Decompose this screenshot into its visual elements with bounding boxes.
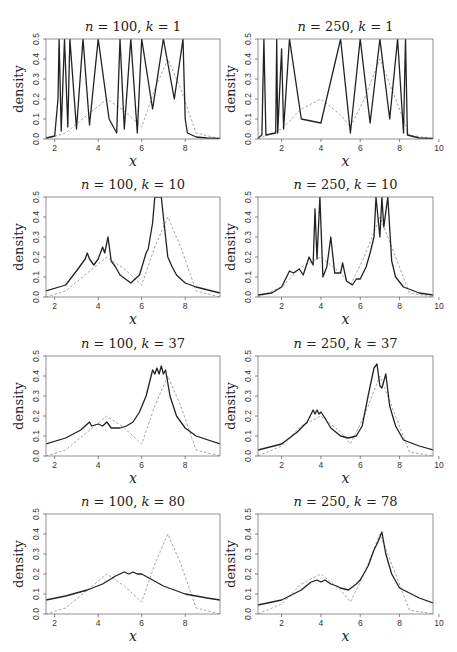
y-tick-label: 0.0: [243, 291, 253, 303]
x-tick-label: 6: [139, 143, 144, 153]
y-tick-label: 0.1: [243, 588, 253, 600]
y-tick-label: 0.1: [243, 113, 253, 125]
x-tick-label: 8: [183, 618, 188, 628]
x-tick-label: 4: [319, 618, 324, 628]
y-tick-label: 0.3: [31, 548, 41, 560]
y-axis-label: density: [11, 539, 26, 587]
x-tick-label: 8: [397, 460, 402, 470]
y-tick-label: 0.5: [31, 33, 41, 45]
y-tick-label: 0.3: [31, 231, 41, 243]
y-tick-label: 0.0: [243, 133, 253, 145]
y-axis-label: density: [223, 222, 238, 270]
y-axis-label: density: [11, 222, 26, 270]
y-tick-label: 0.2: [31, 568, 41, 580]
y-axis-label: density: [223, 381, 238, 429]
y-tick-label: 0.4: [243, 528, 253, 540]
y-tick-label: 0.0: [31, 291, 41, 303]
y-tick-label: 0.3: [243, 390, 253, 402]
x-tick-label: 10: [434, 618, 444, 628]
x-axis-label: x: [342, 311, 350, 327]
plot-frame: [46, 514, 220, 614]
x-tick-label: 6: [139, 460, 144, 470]
y-axis-label: density: [223, 539, 238, 587]
y-tick-label: 0.0: [243, 608, 253, 620]
estimate-line: [258, 39, 433, 138]
estimate-line: [258, 532, 433, 605]
x-tick-label: 8: [397, 143, 402, 153]
y-tick-label: 0.3: [31, 73, 41, 85]
y-tick-label: 0.4: [243, 53, 253, 65]
y-tick-label: 0.4: [31, 528, 41, 540]
x-axis-label: x: [342, 470, 350, 486]
y-tick-label: 0.4: [31, 211, 41, 223]
x-tick-label: 10: [434, 143, 444, 153]
estimate-line: [46, 366, 220, 444]
x-tick-label: 6: [358, 618, 363, 628]
plot-frame: [46, 197, 220, 297]
y-tick-label: 0.2: [243, 568, 253, 580]
x-tick-label: 2: [52, 301, 57, 311]
y-tick-label: 0.1: [243, 271, 253, 283]
x-tick-label: 4: [96, 143, 101, 153]
x-tick-label: 4: [96, 301, 101, 311]
x-tick-label: 4: [96, 618, 101, 628]
true-density-line: [46, 376, 220, 456]
y-tick-label: 0.3: [243, 73, 253, 85]
y-tick-label: 0.0: [31, 608, 41, 620]
panel-8: n = 250, k = 780.00.10.20.30.40.5246810x…: [223, 494, 444, 644]
y-tick-label: 0.0: [31, 133, 41, 145]
x-tick-label: 2: [279, 618, 284, 628]
x-tick-label: 4: [319, 143, 324, 153]
y-tick-label: 0.2: [31, 410, 41, 422]
y-tick-label: 0.1: [31, 271, 41, 283]
estimate-line: [46, 197, 220, 293]
x-axis-label: x: [342, 628, 350, 644]
panel-5: n = 100, k = 370.00.10.20.30.40.52468xde…: [11, 336, 220, 486]
panel-6: n = 250, k = 370.00.10.20.30.40.5246810x…: [223, 336, 444, 486]
plot-frame: [46, 39, 220, 139]
y-tick-label: 0.2: [243, 251, 253, 263]
x-tick-label: 2: [52, 460, 57, 470]
panel-title: n = 100, k = 1: [85, 19, 181, 34]
panel-3: n = 100, k = 100.00.10.20.30.40.52468xde…: [11, 177, 220, 327]
x-tick-label: 8: [183, 301, 188, 311]
x-tick-label: 2: [52, 618, 57, 628]
x-tick-label: 2: [52, 143, 57, 153]
x-tick-label: 2: [279, 143, 284, 153]
panel-title: n = 250, k = 1: [298, 19, 394, 34]
panel-7: n = 100, k = 800.00.10.20.30.40.52468xde…: [11, 494, 220, 644]
x-tick-label: 8: [397, 301, 402, 311]
y-tick-label: 0.3: [31, 390, 41, 402]
density-figure: n = 100, k = 10.00.10.20.30.40.52468xden…: [0, 0, 457, 652]
y-axis-label: density: [11, 381, 26, 429]
y-tick-label: 0.0: [31, 450, 41, 462]
panel-title: n = 250, k = 78: [293, 494, 397, 509]
plot-frame: [46, 356, 220, 456]
x-tick-label: 6: [139, 618, 144, 628]
x-axis-label: x: [129, 311, 137, 327]
panel-title: n = 100, k = 80: [81, 494, 185, 509]
x-tick-label: 4: [319, 460, 324, 470]
x-tick-label: 2: [279, 460, 284, 470]
y-tick-label: 0.0: [243, 450, 253, 462]
x-axis-label: x: [342, 153, 350, 169]
x-tick-label: 2: [279, 301, 284, 311]
true-density-line: [258, 376, 433, 456]
x-axis-label: x: [129, 628, 137, 644]
y-tick-label: 0.5: [243, 508, 253, 520]
panel-title: n = 250, k = 37: [293, 336, 397, 351]
x-tick-label: 6: [358, 301, 363, 311]
x-axis-label: x: [129, 470, 137, 486]
y-tick-label: 0.3: [243, 548, 253, 560]
y-axis-label: density: [223, 64, 238, 112]
x-tick-label: 4: [319, 301, 324, 311]
x-tick-label: 8: [183, 460, 188, 470]
y-tick-label: 0.4: [31, 370, 41, 382]
y-tick-label: 0.1: [31, 113, 41, 125]
y-tick-label: 0.1: [243, 430, 253, 442]
true-density-line: [46, 534, 220, 614]
y-axis-label: density: [11, 64, 26, 112]
x-axis-label: x: [129, 153, 137, 169]
estimate-line: [258, 197, 433, 295]
x-tick-label: 6: [358, 460, 363, 470]
